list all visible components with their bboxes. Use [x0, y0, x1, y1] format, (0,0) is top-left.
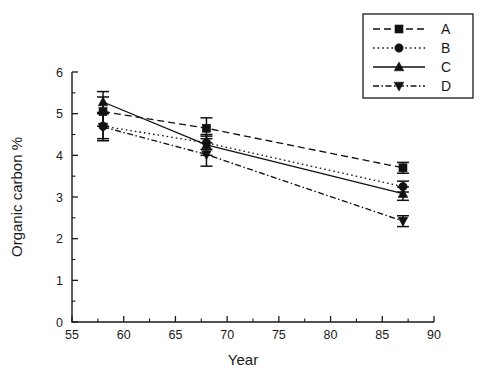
- y-tick-label: 4: [56, 149, 63, 163]
- x-tick-label: 85: [375, 328, 389, 342]
- marker-square-legend-A: [395, 25, 403, 33]
- y-tick-label: 2: [56, 232, 63, 246]
- y-tick-label: 5: [56, 107, 63, 121]
- legend-label-B: B: [441, 40, 450, 56]
- x-tick-label: 65: [168, 328, 182, 342]
- x-tick-label: 90: [427, 328, 441, 342]
- x-tick-label: 55: [65, 328, 79, 342]
- organic-carbon-line-chart: 5560657075808590 0123456 ABCD Year Organ…: [0, 0, 486, 378]
- x-tick-label: 75: [272, 328, 286, 342]
- y-tick-label: 6: [56, 66, 63, 80]
- legend-label-C: C: [441, 59, 451, 75]
- y-tick-label: 0: [56, 316, 63, 330]
- marker-square-A: [99, 108, 107, 116]
- x-tick-label: 60: [117, 328, 131, 342]
- x-axis-title: Year: [228, 351, 258, 368]
- x-tick-label: 70: [220, 328, 234, 342]
- legend-border: [363, 14, 473, 98]
- legend-label-A: A: [441, 21, 451, 37]
- marker-circle-legend-B: [395, 44, 403, 52]
- chart-figure: 5560657075808590 0123456 ABCD Year Organ…: [0, 0, 486, 378]
- legend-label-D: D: [441, 78, 451, 94]
- x-tick-label: 80: [324, 328, 338, 342]
- y-tick-label: 1: [56, 274, 63, 288]
- chart-legend: ABCD: [363, 14, 473, 98]
- marker-square-A: [399, 164, 407, 172]
- marker-square-A: [202, 124, 210, 132]
- y-tick-label: 3: [56, 191, 63, 205]
- y-axis-title: Organic carbon %: [8, 137, 25, 257]
